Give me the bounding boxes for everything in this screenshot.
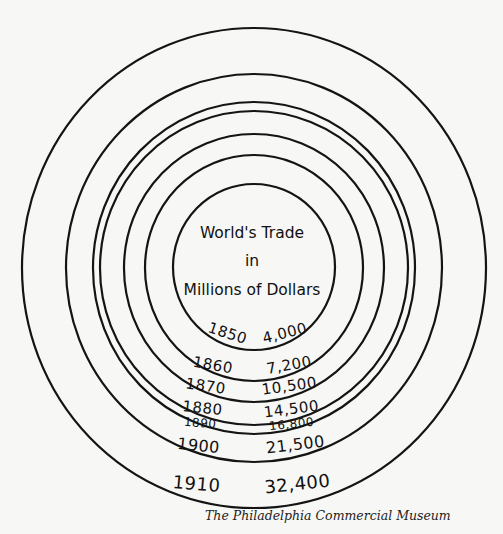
year-label-1900: 1900 — [176, 434, 220, 457]
value-label-1900: 21,500 — [265, 432, 326, 458]
title-line-3: Millions of Dollars — [184, 281, 321, 299]
diagram-title: World's Trade in Millions of Dollars — [184, 224, 321, 299]
year-label-1890: 1890 — [184, 415, 217, 431]
year-label-1870: 1870 — [185, 374, 227, 397]
value-label-1910: 32,400 — [263, 470, 331, 498]
year-label-1910: 1910 — [172, 471, 221, 496]
year-label-1850: 1850 — [206, 318, 250, 348]
title-line-1: World's Trade — [200, 224, 304, 242]
title-line-2: in — [245, 252, 259, 270]
labels-group: 18504,00018607,200187010,500188014,50018… — [172, 318, 331, 497]
world-trade-diagram: World's Trade in Millions of Dollars 185… — [0, 0, 503, 534]
source-caption: The Philadelphia Commercial Museum — [205, 508, 451, 523]
year-label-1860: 1860 — [192, 353, 235, 378]
